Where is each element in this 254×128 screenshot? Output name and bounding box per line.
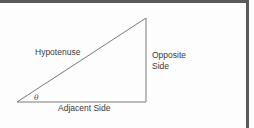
diagram-canvas: Hypotenuse Opposite Side Adjacent Side θ: [0, 0, 254, 128]
theta-angle-label: θ: [34, 93, 39, 102]
opposite-side-label-line2: Side: [152, 61, 169, 72]
hypotenuse-label: Hypotenuse: [35, 47, 80, 58]
opposite-side-label-line1: Opposite: [152, 50, 186, 61]
adjacent-side-label: Adjacent Side: [58, 103, 110, 114]
hypotenuse-line: [17, 18, 146, 102]
right-triangle: [0, 0, 254, 128]
